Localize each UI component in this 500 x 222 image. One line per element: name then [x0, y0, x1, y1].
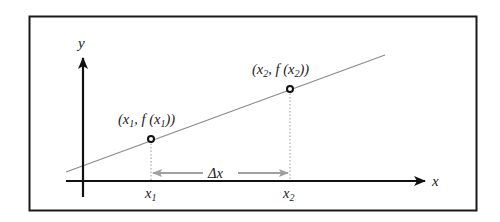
point-1-marker — [148, 136, 154, 142]
point-2-marker — [287, 86, 293, 92]
diagram-canvas: x y (x1, f (x1)) (x2, f (x2)) x1 x2 Δx — [0, 0, 500, 222]
x-axis-label: x — [431, 173, 439, 189]
function-line — [66, 55, 385, 172]
point-1-label: (x1, f (x1)) — [118, 111, 175, 129]
x1-tick-label: x1 — [144, 185, 156, 203]
delta-x-label: Δx — [207, 165, 224, 181]
y-axis-label: y — [76, 35, 85, 51]
point-2-label: (x2, f (x2)) — [252, 61, 309, 79]
x2-tick-label: x2 — [282, 185, 294, 203]
